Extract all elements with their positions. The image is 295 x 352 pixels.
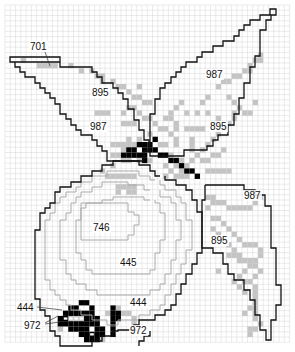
gray-stitch [158, 142, 163, 147]
gray-stitch [168, 116, 173, 121]
black-stitch [126, 153, 131, 158]
gray-stitch [216, 269, 221, 274]
gray-stitch [174, 163, 179, 168]
gray-stitch [116, 153, 121, 158]
gray-stitch [253, 316, 258, 321]
gray-stitch [163, 163, 168, 168]
gray-stitch [184, 163, 189, 168]
gray-stitch [253, 258, 258, 263]
gray-stitch [237, 253, 242, 258]
gray-stitch [126, 89, 131, 94]
black-stitch [95, 321, 100, 326]
gray-stitch [200, 126, 205, 131]
white-highlight [74, 317, 78, 319]
gray-stitch [205, 195, 210, 200]
label-701: 701 [30, 41, 47, 52]
gray-stitch [116, 184, 121, 189]
black-stitch [79, 300, 84, 305]
black-stitch [84, 316, 89, 321]
gray-stitch [232, 205, 237, 210]
gray-stitch [137, 110, 142, 115]
black-stitch [153, 137, 158, 142]
black-stitch [58, 316, 63, 321]
gray-stitch [242, 311, 247, 316]
black-stitch [121, 153, 126, 158]
black-stitch [195, 174, 200, 179]
gray-stitch [237, 205, 242, 210]
gray-stitch [121, 174, 126, 179]
gray-stitch [174, 174, 179, 179]
gray-stitch [253, 274, 258, 279]
gray-stitch [205, 168, 210, 173]
gray-stitch [247, 242, 252, 247]
gray-stitch [189, 126, 194, 131]
label-445: 445 [120, 257, 137, 268]
black-stitch [63, 321, 68, 326]
gray-stitch [184, 174, 189, 179]
black-stitch [68, 326, 73, 331]
gray-stitch [216, 200, 221, 205]
gray-stitch [232, 253, 237, 258]
gray-stitch [121, 311, 126, 316]
gray-stitch [147, 100, 152, 105]
gray-stitch [242, 110, 247, 115]
black-stitch [74, 321, 79, 326]
label-972-right: 972 [130, 325, 147, 336]
gray-stitch [253, 100, 258, 105]
gray-stitch [131, 174, 136, 179]
black-stitch [137, 142, 142, 147]
gray-stitch [216, 153, 221, 158]
black-stitch [95, 326, 100, 331]
gray-stitch [253, 263, 258, 268]
gray-stitch [237, 74, 242, 79]
gray-stitch [242, 242, 247, 247]
label-895-top-leaf: 895 [210, 121, 227, 132]
gray-stitch [205, 205, 210, 210]
gray-stitch [42, 63, 47, 68]
gray-stitch [258, 253, 263, 258]
black-stitch [142, 142, 147, 147]
gray-stitch [184, 110, 189, 115]
gray-stitch [247, 258, 252, 263]
gray-stitch [226, 226, 231, 231]
label-895-right-leaf: 895 [211, 235, 228, 246]
gray-stitch [131, 189, 136, 194]
gray-stitch [237, 284, 242, 289]
black-stitch [63, 311, 68, 316]
gray-stitch [211, 195, 216, 200]
gray-stitch [110, 142, 115, 147]
black-stitch [84, 332, 89, 337]
gray-stitch [247, 279, 252, 284]
black-stitch [110, 311, 115, 316]
black-stitch [168, 158, 173, 163]
gray-stitch [232, 74, 237, 79]
gray-stitch [253, 326, 258, 331]
gray-stitch [258, 58, 263, 63]
white-highlight [69, 317, 73, 319]
gray-stitch [226, 95, 231, 100]
gray-stitch [253, 290, 258, 295]
label-444-left: 444 [17, 302, 34, 313]
gray-stitch [242, 68, 247, 73]
gray-stitch [121, 184, 126, 189]
gray-stitch [211, 168, 216, 173]
gray-stitch [200, 100, 205, 105]
gray-stitch [179, 158, 184, 163]
black-stitch [137, 153, 142, 158]
black-stitch [110, 316, 115, 321]
black-stitch [179, 163, 184, 168]
black-stitch [131, 153, 136, 158]
gray-stitch [116, 142, 121, 147]
black-stitch [84, 321, 89, 326]
black-stitch [84, 337, 89, 342]
label-987-left-leaf: 987 [90, 121, 107, 132]
cross-stitch-chart: 701895987987895987895746445444444972972 [0, 0, 295, 352]
gray-stitch [242, 258, 247, 263]
gray-stitch [253, 295, 258, 300]
gray-stitch [211, 216, 216, 221]
gray-stitch [163, 142, 168, 147]
gray-stitch [216, 168, 221, 173]
gray-stitch [163, 116, 168, 121]
gray-stitch [179, 100, 184, 105]
gray-stitch [121, 147, 126, 152]
